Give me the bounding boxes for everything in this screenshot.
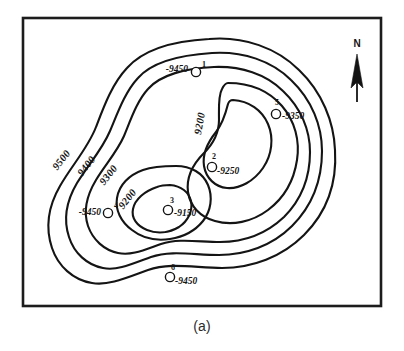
figure-caption: (a) [0, 318, 404, 334]
north-letter-label: N [353, 38, 360, 49]
well-number-1: 1 [202, 60, 206, 69]
well-point-2[interactable]: 2 -9250 [207, 152, 239, 176]
well-number-5: 5 [275, 98, 279, 107]
well-point-4[interactable]: 4 -9450 [79, 201, 118, 218]
well-value-1: -9450 [166, 64, 188, 74]
well-number-6: 6 [171, 263, 175, 272]
contour-map-svg: 9500 9400 9300 9200 9200 1 -9450 5 -9350… [0, 0, 404, 351]
well-number-2: 2 [212, 152, 216, 161]
well-symbol-circle[interactable] [207, 162, 216, 171]
well-symbol-circle[interactable] [271, 109, 280, 118]
well-value-4: -9450 [79, 207, 101, 217]
north-arrow: N [351, 38, 363, 102]
well-symbol-circle[interactable] [191, 67, 200, 76]
well-value-5: -9350 [282, 111, 304, 121]
well-symbol-circle[interactable] [165, 272, 174, 281]
well-symbol-circle[interactable] [163, 205, 172, 214]
contour-label-9300: 9300 [97, 162, 120, 187]
contour-label-9200-northeast: 9200 [192, 111, 207, 135]
well-symbol-circle[interactable] [103, 208, 112, 217]
well-number-4: 4 [114, 201, 118, 210]
well-value-6: -9450 [175, 276, 197, 286]
well-value-3: -9150 [174, 208, 196, 218]
figure-root: 9500 9400 9300 9200 9200 1 -9450 5 -9350… [0, 0, 404, 351]
well-point-5[interactable]: 5 -9350 [271, 98, 304, 121]
well-value-2: -9250 [217, 166, 239, 176]
contour-label-9500: 9500 [50, 147, 73, 172]
well-number-3: 3 [170, 196, 174, 205]
contour-line-9400 [66, 53, 322, 269]
